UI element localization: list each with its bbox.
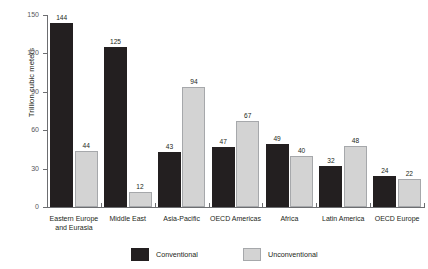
bar-value-label: 125 — [98, 38, 133, 45]
y-axis-tick-label: 0 — [17, 203, 39, 210]
x-axis-tick — [262, 203, 263, 208]
bar-conventional — [212, 147, 235, 207]
bar-value-label: 49 — [260, 135, 295, 142]
x-axis-tick — [316, 203, 317, 208]
bar-value-label: 12 — [123, 183, 158, 190]
y-axis-tick-label: 120 — [17, 49, 39, 56]
bar-unconventional — [344, 146, 367, 207]
bar-conventional — [373, 176, 396, 207]
legend-item-conventional: Conventional — [131, 248, 198, 261]
x-axis-line — [47, 207, 424, 208]
bar-unconventional — [182, 87, 205, 207]
bar-conventional — [319, 166, 342, 207]
y-axis-title: Trillion cubic meters — [27, 8, 36, 158]
x-axis-tick — [424, 203, 425, 208]
y-axis-tick — [43, 130, 48, 131]
y-axis-tick-label: 90 — [17, 88, 39, 95]
bar-unconventional — [129, 192, 152, 207]
light-square-swatch-icon — [243, 248, 261, 261]
y-axis-tick — [43, 53, 48, 54]
legend-item-unconventional: Unconventional — [243, 248, 318, 261]
chart-legend: Conventional Unconventional — [0, 248, 428, 266]
y-axis-tick — [43, 92, 48, 93]
bar-value-label: 22 — [392, 170, 427, 177]
x-axis-tick — [370, 203, 371, 208]
legend-item-label: Unconventional — [268, 250, 318, 259]
bar-value-label: 67 — [230, 112, 265, 119]
category-label-line: and Eurasia — [41, 223, 107, 232]
bar-unconventional — [398, 179, 421, 207]
bar-conventional — [50, 23, 73, 207]
x-axis-category-label: OECD Europe — [364, 214, 428, 223]
y-axis-tick — [43, 207, 48, 208]
y-axis-tick-label: 30 — [17, 165, 39, 172]
bar-unconventional — [290, 156, 313, 207]
x-axis-tick — [155, 203, 156, 208]
x-axis-tick — [209, 203, 210, 208]
bar-unconventional — [75, 151, 98, 207]
y-axis-line — [47, 15, 48, 208]
bar-value-label: 40 — [284, 147, 319, 154]
y-axis-tick — [43, 169, 48, 170]
category-label-line: OECD Europe — [364, 214, 428, 223]
bar-conventional — [158, 152, 181, 207]
y-axis-tick-label: 60 — [17, 126, 39, 133]
bar-value-label: 44 — [69, 142, 104, 149]
dark-square-swatch-icon — [131, 248, 149, 261]
grouped-bar-chart: Trillion cubic meters 0306090120150 1444… — [0, 0, 428, 269]
bar-value-label: 94 — [176, 78, 211, 85]
x-axis-tick — [101, 203, 102, 208]
bar-value-label: 48 — [338, 137, 373, 144]
bar-unconventional — [236, 121, 259, 207]
y-axis-tick-label: 150 — [17, 11, 39, 18]
legend-item-label: Conventional — [156, 250, 198, 259]
bar-value-label: 144 — [44, 14, 79, 21]
